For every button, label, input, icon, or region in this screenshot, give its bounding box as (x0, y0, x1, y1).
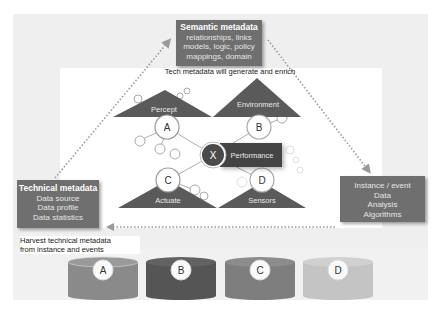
node-c-label: C (164, 175, 171, 186)
harvest-caption: Harvest technical metadata from instance… (20, 236, 140, 254)
triangle-label: Environment (237, 100, 280, 109)
semantic-title: Semantic metadata (176, 23, 262, 33)
cylinder-b: B (146, 257, 216, 300)
instance-line: Instance / event (340, 181, 425, 191)
technical-line: Data source (17, 194, 99, 204)
technical-line: Data profile (17, 203, 99, 213)
harvest-line: from instance and events (20, 245, 140, 254)
triangle-label: Sensors (248, 196, 276, 205)
cylinder-a: A (68, 257, 138, 300)
storage-cylinders: A B C D (68, 257, 373, 300)
triangle-label: Percept (151, 105, 178, 114)
harvest-line: Harvest technical metadata (20, 236, 140, 245)
cylinder-c: C (225, 257, 295, 300)
triangle-label: Actuate (155, 196, 180, 205)
technical-title: Technical metadata (17, 184, 99, 194)
instance-line: Analysis (340, 200, 425, 210)
instance-line: Data (340, 191, 425, 201)
semantic-line: relationships, links (176, 33, 262, 43)
cylinder-a-label: A (100, 265, 107, 276)
semantic-line: models, logic, policy (176, 42, 262, 52)
cylinder-b-label: B (178, 265, 185, 276)
node-x-label: X (210, 150, 217, 161)
instance-event-box: Instance / event Data Analysis Algorithm… (340, 176, 425, 222)
generate-caption: Tech metadata will generate and enrich (150, 67, 310, 76)
technical-line: Data statistics (17, 213, 99, 223)
technical-metadata-box: Technical metadata Data source Data prof… (17, 180, 99, 228)
cylinder-d: D (303, 257, 373, 300)
cylinder-c-label: C (256, 265, 263, 276)
triangle-environment (213, 78, 301, 117)
semantic-metadata-box: Semantic metadata relationships, links m… (176, 20, 262, 66)
semantic-line: mappings, domain (176, 52, 262, 62)
node-d-label: D (258, 175, 265, 186)
instance-line: Algorithms (340, 210, 425, 220)
performance-label: Performance (231, 151, 274, 160)
node-b-label: B (256, 122, 263, 133)
cylinder-d-label: D (334, 265, 341, 276)
node-a-label: A (164, 122, 171, 133)
